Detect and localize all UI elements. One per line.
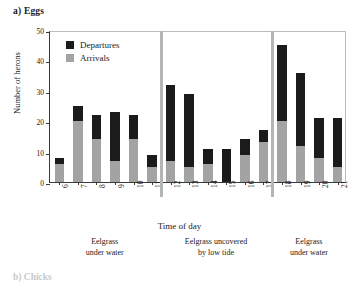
bar-17[interactable] — [259, 130, 269, 182]
legend-label-departures: Departures — [80, 40, 119, 50]
bar-segment-arrivals — [73, 121, 83, 182]
x-tick-label-15: 15 — [229, 181, 237, 189]
bar-segment-arrivals — [166, 161, 176, 182]
bar-segment-arrivals — [277, 121, 287, 182]
x-tick — [301, 182, 302, 185]
bar-segment-departures — [166, 85, 176, 161]
bar-15[interactable] — [222, 149, 232, 182]
bar-segment-departures — [184, 94, 194, 167]
x-tick — [171, 182, 172, 185]
legend-swatch-arrivals — [66, 54, 74, 62]
bar-14[interactable] — [203, 149, 213, 182]
legend-swatch-departures — [66, 41, 74, 49]
zone-separator — [271, 31, 274, 197]
zone-caption-line2: under water — [45, 248, 165, 259]
x-tick-label-7: 7 — [81, 184, 89, 188]
bar-19[interactable] — [296, 73, 306, 182]
bar-9[interactable] — [110, 112, 120, 182]
bar-segment-arrivals — [240, 155, 250, 182]
zone-caption-line2: under water — [249, 248, 359, 259]
zone-caption-1: Eelgrassunder water — [45, 237, 165, 258]
x-tick — [282, 182, 283, 185]
bar-segment-departures — [222, 149, 232, 182]
bar-segment-arrivals — [314, 158, 324, 182]
bar-11[interactable] — [147, 155, 157, 182]
bar-7[interactable] — [73, 106, 83, 182]
x-tick — [115, 182, 116, 185]
bar-segment-departures — [203, 149, 213, 164]
bar-segment-departures — [296, 73, 306, 146]
x-tick-label-14: 14 — [211, 181, 219, 189]
x-tick-label-16: 16 — [248, 181, 256, 189]
panel-title: a) Eggs — [13, 6, 44, 16]
bar-segment-departures — [259, 130, 269, 142]
x-tick-label-20: 20 — [322, 181, 330, 189]
zone-caption-line1: Eelgrass — [249, 237, 359, 248]
x-axis-label: Time of day — [0, 221, 359, 231]
bar-13[interactable] — [184, 94, 194, 182]
bar-segment-departures — [110, 112, 120, 161]
y-tick-label: 20 — [37, 119, 45, 127]
x-tick — [134, 182, 135, 185]
zone-caption-line1: Eelgrass — [45, 237, 165, 248]
x-tick-label-8: 8 — [99, 184, 107, 188]
legend-label-arrivals: Arrivals — [80, 53, 110, 63]
y-tick-label: 50 — [37, 28, 45, 36]
y-tick-label: 0 — [40, 180, 44, 188]
bar-segment-arrivals — [129, 139, 139, 182]
y-tick — [46, 184, 50, 185]
y-tick-label: 40 — [37, 59, 45, 67]
x-tick — [319, 182, 320, 185]
x-tick-label-6: 6 — [62, 184, 70, 188]
x-tick-label-9: 9 — [118, 184, 126, 188]
legend-item-departures: Departures — [66, 40, 119, 50]
x-tick — [208, 182, 209, 185]
bar-segment-departures — [240, 139, 250, 154]
x-tick — [338, 182, 339, 185]
bar-segment-departures — [73, 106, 83, 121]
bar-21[interactable] — [333, 118, 343, 182]
bar-segment-arrivals — [296, 146, 306, 182]
chart-legend: Departures Arrivals — [66, 40, 119, 66]
legend-item-arrivals: Arrivals — [66, 53, 119, 63]
bar-16[interactable] — [240, 139, 250, 182]
y-tick — [46, 62, 50, 63]
x-tick — [152, 182, 153, 185]
bar-6[interactable] — [55, 158, 65, 182]
next-panel-title: b) Chicks — [13, 272, 52, 282]
x-tick-label-13: 13 — [192, 181, 200, 189]
x-tick-label-19: 19 — [304, 181, 312, 189]
x-tick-label-10: 10 — [137, 181, 145, 189]
y-tick-label: 10 — [37, 150, 45, 158]
bar-segment-departures — [129, 115, 139, 139]
bar-20[interactable] — [314, 118, 324, 182]
bar-10[interactable] — [129, 115, 139, 182]
bar-segment-departures — [147, 155, 157, 167]
x-tick — [78, 182, 79, 185]
bar-12[interactable] — [166, 85, 176, 182]
y-tick — [46, 154, 50, 155]
y-tick — [46, 32, 50, 33]
y-tick — [46, 123, 50, 124]
x-tick-label-21: 21 — [341, 181, 349, 189]
bar-segment-departures — [333, 118, 343, 167]
bar-segment-departures — [277, 45, 287, 121]
x-tick-label-18: 18 — [285, 181, 293, 189]
y-tick-label: 30 — [37, 89, 45, 97]
x-tick-label-12: 12 — [174, 181, 182, 189]
y-tick — [46, 93, 50, 94]
bar-segment-departures — [92, 115, 102, 139]
bar-segment-departures — [314, 118, 324, 158]
bar-8[interactable] — [92, 115, 102, 182]
y-axis-label: Number of herons — [12, 28, 22, 138]
bar-segment-arrivals — [259, 142, 269, 182]
bar-segment-arrivals — [110, 161, 120, 182]
bar-segment-arrivals — [147, 167, 157, 182]
x-tick — [245, 182, 246, 185]
bar-segment-arrivals — [92, 139, 102, 182]
zone-caption-3: Eelgrassunder water — [249, 237, 359, 258]
bar-18[interactable] — [277, 45, 287, 182]
zone-separator — [160, 31, 163, 197]
bar-segment-arrivals — [55, 164, 65, 182]
